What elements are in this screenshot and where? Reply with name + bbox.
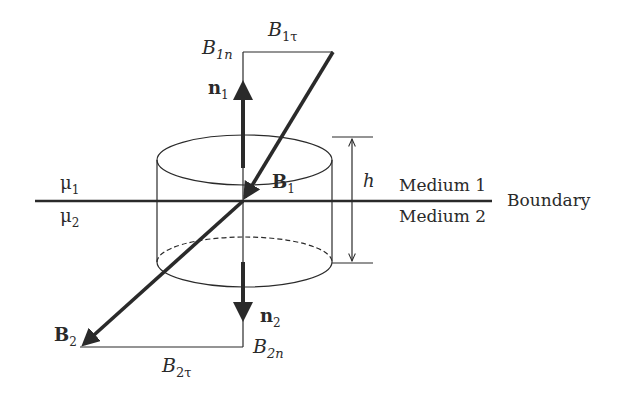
medium2-label: Medium 2 [399,206,486,226]
mu2-label: μ2 [60,205,79,230]
medium1-label: Medium 1 [399,175,486,195]
h-label: h [363,170,375,191]
B2-vector [84,201,243,344]
mu1-label: μ1 [60,172,79,197]
cylinder-bottom-back-dashed [157,237,332,262]
n2-label: n2 [260,305,281,330]
B1-label: B1 [272,171,295,196]
boundary-label: Boundary [507,190,591,210]
B2t-label: B2τ [161,354,191,380]
B2-label: B2 [54,324,77,349]
n1-label: n1 [208,77,229,102]
B1-vector [245,52,333,197]
B1n-label: B1n [201,36,233,62]
boundary-diagram: B1τ B1n n1 B1 μ1 μ2 h Medium 1 Medium 2 … [0,0,626,397]
B2n-label: B2n [252,335,284,361]
B1t-label: B1τ [267,18,297,44]
